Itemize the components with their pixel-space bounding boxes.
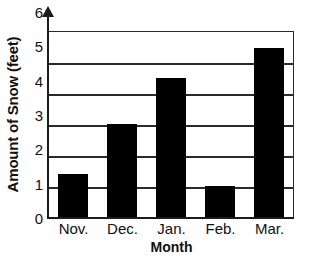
y-axis-tick-label: 3 (35, 108, 43, 123)
y-axis-title-text: Amount of Snow (feet) (5, 36, 22, 192)
x-axis-tick-label: Nov. (51, 221, 97, 238)
x-axis-title: Month (49, 239, 294, 255)
x-axis-line (47, 217, 294, 219)
y-axis-tick-labels: 0123456 (26, 12, 44, 218)
plot-area (49, 31, 294, 217)
bars-container (49, 32, 293, 217)
y-axis-tick-label: 0 (35, 211, 43, 226)
x-axis-tick-label: Feb. (198, 221, 244, 238)
y-axis-tick-label: 1 (35, 176, 43, 191)
y-axis-tick-label: 5 (35, 39, 43, 54)
bar (205, 186, 235, 217)
y-axis-tick-label: 2 (35, 142, 43, 157)
bar (156, 78, 186, 218)
y-axis-title: Amount of Snow (feet) (0, 0, 26, 228)
snowfall-bar-chart: Amount of Snow (feet) 0123456 Nov.Dec.Ja… (0, 0, 311, 258)
bar (254, 48, 284, 217)
y-axis-tick-label: 4 (35, 73, 43, 88)
x-axis-tick-label: Dec. (100, 221, 146, 238)
x-axis-tick-label: Jan. (149, 221, 195, 238)
bar (58, 174, 88, 217)
x-axis-tick-label: Mar. (247, 221, 293, 238)
y-axis-arrow-icon (42, 6, 54, 17)
bar (107, 124, 137, 217)
x-axis-tick-labels: Nov.Dec.Jan.Feb.Mar. (49, 221, 294, 241)
